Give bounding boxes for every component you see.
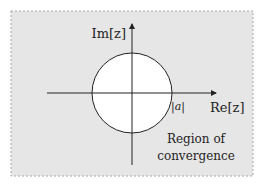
- z-plane-diagram: Im[z] Re[z] |a| Region of convergence: [0, 0, 262, 187]
- real-axis-label: Re[z]: [210, 100, 244, 115]
- radius-label: |a|: [171, 100, 185, 114]
- region-label-line2: convergence: [157, 149, 235, 163]
- region-label-line1: Region of: [167, 132, 227, 146]
- imag-axis-label: Im[z]: [92, 26, 126, 41]
